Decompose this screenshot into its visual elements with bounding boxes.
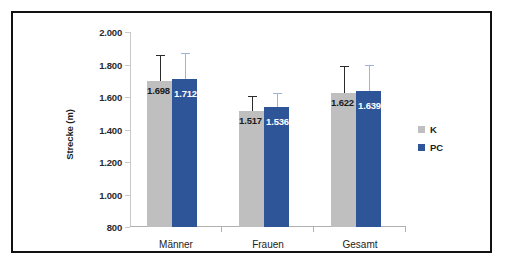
- error-bar-pc: [369, 65, 370, 90]
- bar-value-label: 1.712: [174, 88, 197, 99]
- legend-swatch-k: [418, 126, 425, 133]
- error-bar-cap: [248, 96, 257, 97]
- x-axis-separator-tick: [313, 227, 314, 232]
- bar-pc[interactable]: 1.536: [264, 107, 289, 227]
- error-bar-k: [160, 55, 161, 81]
- x-axis-category-label: Gesamt: [342, 239, 377, 250]
- y-axis-tick-label: 1.000: [99, 189, 122, 200]
- y-axis-title: Strecke (m): [62, 86, 76, 182]
- bar-k[interactable]: 1.517: [239, 111, 264, 228]
- x-axis-separator-tick: [221, 227, 222, 232]
- error-bar-cap: [365, 65, 374, 66]
- legend-item-pc[interactable]: PC: [418, 140, 443, 155]
- bar-value-label: 1.639: [358, 100, 381, 111]
- error-bar-cap: [156, 55, 165, 56]
- x-axis-category-label: Männer: [159, 239, 193, 250]
- error-bar-k: [252, 96, 253, 111]
- legend-swatch-pc: [418, 144, 425, 151]
- y-axis-tick-label: 1.200: [99, 157, 122, 168]
- error-bar-pc: [277, 93, 278, 107]
- error-bar-pc: [185, 53, 186, 79]
- y-axis-title-label: Strecke (m): [64, 109, 75, 160]
- y-axis-tick-label: 2.000: [99, 27, 122, 38]
- error-bar-k: [344, 66, 345, 93]
- bar-pc[interactable]: 1.712: [172, 79, 197, 227]
- bar-value-label: 1.698: [147, 85, 170, 96]
- chart-legend: KPC: [418, 122, 443, 158]
- y-axis-tick-mark: [125, 227, 130, 228]
- bar-k[interactable]: 1.622: [331, 93, 356, 227]
- bar-group: 1.5171.536Frauen: [222, 32, 314, 227]
- bar-group: 1.6221.639Gesamt: [314, 32, 406, 227]
- x-axis-category-label: Frauen: [252, 239, 284, 250]
- bar-k[interactable]: 1.698: [147, 81, 172, 227]
- bar-value-label: 1.536: [266, 116, 289, 127]
- bar-value-label: 1.517: [239, 115, 262, 126]
- y-axis-tick-label: 800: [107, 222, 122, 233]
- bar-value-label: 1.622: [331, 97, 354, 108]
- legend-label: K: [430, 125, 437, 135]
- legend-item-k[interactable]: K: [418, 122, 443, 137]
- error-bar-cap: [340, 66, 349, 67]
- bar-pc[interactable]: 1.639: [356, 91, 381, 227]
- error-bar-cap: [181, 53, 190, 54]
- y-axis-tick-label: 1.400: [99, 124, 122, 135]
- y-axis-tick-label: 1.800: [99, 59, 122, 70]
- error-bar-cap: [273, 93, 282, 94]
- legend-label: PC: [430, 143, 443, 153]
- x-axis-separator-tick: [405, 227, 406, 232]
- chart-figure-frame: Strecke (m) 2.0001.8001.6001.4001.2001.0…: [11, 11, 492, 253]
- y-axis-tick-label: 1.600: [99, 92, 122, 103]
- plot-area: 2.0001.8001.6001.4001.2001.000800 1.6981…: [130, 32, 406, 227]
- bar-group: 1.6981.712Männer: [130, 32, 222, 227]
